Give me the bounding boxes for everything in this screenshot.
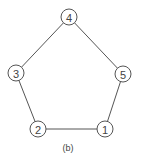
- node-3: 3: [8, 65, 24, 81]
- node-label: 4: [66, 12, 72, 24]
- node-4: 4: [61, 9, 77, 25]
- graph-nodes: 12345: [8, 9, 131, 137]
- node-label: 3: [13, 68, 19, 80]
- edge-5-1: [105, 74, 123, 129]
- node-5: 5: [115, 66, 131, 82]
- node-1: 1: [97, 121, 113, 137]
- diagram-caption: (b): [63, 143, 74, 153]
- node-2: 2: [30, 121, 46, 137]
- cycle-graph-diagram: 12345 (b): [0, 0, 141, 160]
- edge-4-5: [69, 17, 123, 74]
- edge-2-3: [16, 73, 38, 129]
- node-label: 5: [120, 69, 126, 81]
- edge-3-4: [16, 17, 69, 73]
- graph-edges: [16, 17, 123, 129]
- node-label: 1: [102, 124, 108, 136]
- node-label: 2: [35, 124, 41, 136]
